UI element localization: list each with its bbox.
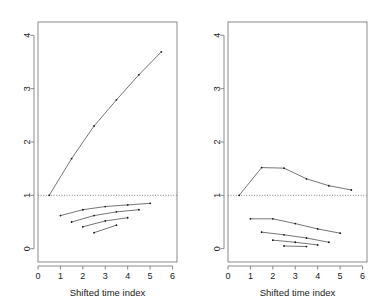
x-tick-label: 1 — [58, 271, 63, 281]
data-point — [272, 218, 274, 220]
data-point — [261, 231, 263, 233]
x-tick-label: 4 — [315, 271, 320, 281]
data-point — [283, 245, 285, 247]
x-tick-label: 2 — [270, 271, 275, 281]
y-tick-label: 3 — [22, 86, 32, 91]
x-tick-label: 4 — [125, 271, 130, 281]
y-tick-label: 2 — [212, 139, 222, 144]
data-point — [138, 209, 140, 211]
series-line — [284, 246, 306, 247]
data-point — [306, 246, 308, 248]
data-point — [104, 220, 106, 222]
series-line — [83, 218, 128, 227]
data-point — [116, 99, 118, 101]
y-tick-label: 3 — [212, 86, 222, 91]
data-point — [71, 158, 73, 160]
x-tick-label: 5 — [338, 271, 343, 281]
data-point — [238, 194, 240, 196]
data-point — [116, 224, 118, 226]
data-point — [82, 226, 84, 228]
data-point — [294, 241, 296, 243]
series-lower-cohort-3 — [82, 217, 129, 228]
data-point — [160, 51, 162, 53]
data-point — [93, 232, 95, 234]
x-tick-label: 3 — [103, 271, 108, 281]
data-point — [294, 223, 296, 225]
data-point — [60, 215, 62, 217]
series-line — [49, 52, 161, 195]
data-point — [138, 74, 140, 76]
y-tick-label: 4 — [212, 33, 222, 38]
data-point — [283, 167, 285, 169]
data-point — [82, 209, 84, 211]
data-point — [93, 215, 95, 217]
x-tick-label: 2 — [80, 271, 85, 281]
data-point — [127, 204, 129, 206]
data-point — [93, 125, 95, 127]
series-upper-trend — [48, 51, 162, 196]
series-upper-trend — [238, 167, 352, 197]
plot-area-left: 012340123456Shifted time index — [0, 0, 190, 307]
data-point — [261, 167, 263, 169]
y-tick-label: 0 — [22, 246, 32, 251]
series-lower-cohort-1 — [250, 218, 341, 234]
figure-canvas: 012340123456Shifted time index 012340123… — [0, 0, 381, 307]
series-lower-cohort-1 — [60, 202, 151, 216]
x-tick-label: 1 — [248, 271, 253, 281]
data-point — [306, 178, 308, 180]
y-tick-label: 4 — [22, 33, 32, 38]
plot-area-right: 012340123456Shifted time index — [190, 0, 380, 307]
y-tick-label: 1 — [22, 193, 32, 198]
data-point — [317, 228, 319, 230]
data-point — [116, 211, 118, 213]
x-tick-label: 0 — [35, 271, 40, 281]
y-tick-label: 2 — [22, 139, 32, 144]
y-tick-label: 0 — [212, 246, 222, 251]
series-lower-cohort-4 — [93, 224, 117, 233]
y-tick-label: 1 — [212, 193, 222, 198]
chart-panel-left: 012340123456Shifted time index — [0, 0, 190, 307]
x-tick-label: 6 — [360, 271, 365, 281]
series-line — [250, 219, 340, 233]
x-axis-title: Shifted time index — [260, 287, 336, 298]
data-point — [149, 202, 151, 204]
data-point — [250, 218, 252, 220]
data-point — [306, 237, 308, 239]
data-point — [104, 206, 106, 208]
chart-panel-right: 012340123456Shifted time index — [190, 0, 380, 307]
data-point — [71, 221, 73, 223]
series-line — [239, 168, 351, 196]
data-point — [317, 244, 319, 246]
x-tick-label: 3 — [293, 271, 298, 281]
plot-frame — [228, 22, 367, 262]
x-axis-title: Shifted time index — [70, 287, 146, 298]
data-point — [339, 232, 341, 234]
plot-frame — [38, 22, 177, 262]
data-point — [127, 217, 129, 219]
series-lower-cohort-4 — [283, 245, 307, 247]
data-point — [272, 239, 274, 241]
series-line — [94, 225, 116, 232]
data-point — [283, 234, 285, 236]
x-tick-label: 0 — [225, 271, 230, 281]
data-point — [48, 194, 50, 196]
data-point — [328, 185, 330, 187]
x-tick-label: 6 — [170, 271, 175, 281]
series-lower-cohort-3 — [272, 239, 319, 246]
data-point — [328, 241, 330, 243]
series-line — [262, 232, 329, 242]
x-tick-label: 5 — [148, 271, 153, 281]
data-point — [350, 189, 352, 191]
